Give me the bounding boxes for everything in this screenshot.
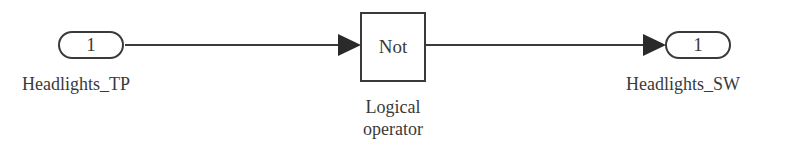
- inport-label: Headlights_TP: [22, 73, 130, 95]
- outport-block[interactable]: 1: [665, 31, 731, 59]
- block-label-line2: operator: [343, 118, 443, 140]
- inport-block[interactable]: 1: [58, 31, 124, 59]
- block-label: Logical operator: [343, 96, 443, 140]
- arrowhead-icon: [643, 34, 666, 56]
- outport-label: Headlights_SW: [626, 73, 740, 95]
- logical-operator-block[interactable]: Not: [360, 12, 426, 82]
- inport-number: 1: [86, 34, 96, 56]
- arrowhead-icon: [338, 34, 361, 56]
- diagram-canvas: 1 Headlights_TP Not Logical operator 1 H…: [0, 0, 790, 145]
- block-text: Not: [379, 36, 408, 58]
- outport-number: 1: [693, 34, 703, 56]
- block-label-line1: Logical: [343, 96, 443, 118]
